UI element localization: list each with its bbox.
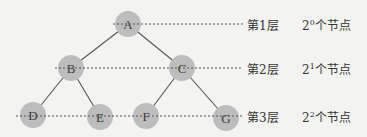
level-1-count: 20个节点: [302, 16, 351, 33]
node-e-label: E: [96, 110, 104, 125]
level-3-name: 第3层: [247, 108, 279, 125]
node-e: E: [87, 104, 113, 130]
level-1-suffix: 个节点: [315, 19, 351, 33]
level-3-base: 2: [302, 111, 310, 125]
level-1-name: 第1层: [247, 16, 279, 33]
level-2-name: 第2层: [247, 60, 279, 77]
level-2-count: 21个节点: [302, 60, 351, 77]
node-g: G: [213, 105, 239, 131]
node-d: D: [20, 102, 46, 128]
node-c-label: C: [178, 61, 187, 76]
node-a-label: A: [123, 17, 133, 32]
level-2-base: 2: [302, 63, 310, 77]
level-guides: [16, 24, 243, 116]
node-g-label: G: [221, 111, 230, 126]
level-2-suffix: 个节点: [315, 63, 351, 77]
level-3-suffix: 个节点: [315, 111, 351, 125]
tree-nodes: A B C D E F G: [20, 11, 239, 131]
level-1-base: 2: [302, 19, 310, 33]
level-3-count: 22个节点: [302, 108, 351, 125]
